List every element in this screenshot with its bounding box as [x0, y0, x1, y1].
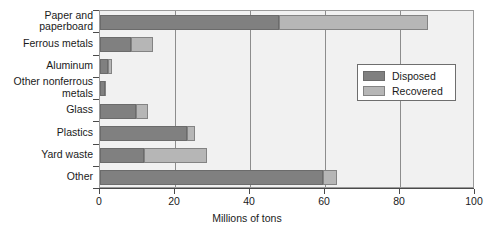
bar-segment-disposed [100, 37, 131, 52]
bar-segment-disposed [100, 170, 323, 185]
bar-yard-waste [100, 148, 207, 163]
bar-plastics [100, 126, 195, 141]
bar-segment-disposed [100, 126, 187, 141]
gridline-40 [250, 11, 251, 187]
bar-segment-recovered [144, 148, 207, 163]
bar-segment-recovered [131, 37, 153, 52]
bar-other-nonferrous-metals [100, 81, 106, 96]
x-tick-60 [324, 189, 325, 194]
y-axis-label-aluminum: Aluminum [0, 60, 93, 72]
y-axis-label-line: Ferrous metals [0, 38, 93, 50]
bar-segment-recovered [323, 170, 337, 185]
chart-legend: Disposed Recovered [357, 64, 456, 101]
y-axis-label-line: Aluminum [0, 60, 93, 72]
bar-segment-disposed [100, 59, 108, 74]
y-tick-4 [93, 99, 99, 100]
y-axis-label-paper-and-paperboard: Paper andpaperboard [0, 10, 93, 33]
y-axis-label-line: Plastics [0, 127, 93, 139]
y-axis-label-ferrous-metals: Ferrous metals [0, 38, 93, 50]
bar-other [100, 170, 337, 185]
bar-aluminum [100, 59, 112, 74]
x-tick-40 [249, 189, 250, 194]
x-tick-label-60: 60 [318, 195, 330, 207]
bar-segment-recovered [136, 104, 148, 119]
bar-ferrous-metals [100, 37, 153, 52]
bar-segment-disposed [100, 104, 136, 119]
y-axis-label-glass: Glass [0, 104, 93, 116]
y-axis-label-other: Other [0, 171, 93, 183]
x-tick-20 [174, 189, 175, 194]
x-axis-line [99, 188, 474, 189]
x-tick-80 [399, 189, 400, 194]
y-axis-label-line: Glass [0, 104, 93, 116]
x-tick-label-80: 80 [393, 195, 405, 207]
x-axis-title: Millions of tons [0, 212, 494, 224]
bar-segment-recovered [105, 81, 106, 96]
y-axis-label-plastics: Plastics [0, 127, 93, 139]
legend-entry-disposed: Disposed [363, 69, 450, 82]
y-axis-label-other-nonferrous-metals: Other nonferrousmetals [0, 76, 93, 99]
y-tick-0 [93, 10, 99, 11]
bar-chart: Paper andpaperboardFerrous metalsAluminu… [0, 0, 494, 235]
y-tick-6 [93, 144, 99, 145]
gridline-60 [325, 11, 326, 187]
y-tick-1 [93, 32, 99, 33]
legend-label-recovered: Recovered [392, 85, 443, 97]
bar-segment-recovered [187, 126, 195, 141]
bar-segment-disposed [100, 15, 279, 30]
x-tick-label-20: 20 [168, 195, 180, 207]
x-tick-0 [99, 189, 100, 194]
bar-paper-and-paperboard [100, 15, 428, 30]
y-tick-3 [93, 77, 99, 78]
bar-segment-disposed [100, 148, 144, 163]
x-tick-100 [474, 189, 475, 194]
y-tick-2 [93, 55, 99, 56]
y-axis-label-line: Yard waste [0, 149, 93, 161]
bar-segment-recovered [108, 59, 113, 74]
y-axis-label-line: metals [0, 88, 93, 100]
x-tick-label-0: 0 [96, 195, 102, 207]
x-tick-label-40: 40 [243, 195, 255, 207]
legend-swatch-recovered [363, 86, 385, 96]
x-tick-label-100: 100 [465, 195, 483, 207]
bar-segment-recovered [279, 15, 428, 30]
y-tick-7 [93, 166, 99, 167]
y-axis-label-line: Other [0, 171, 93, 183]
legend-label-disposed: Disposed [392, 70, 436, 82]
legend-entry-recovered: Recovered [363, 84, 450, 97]
y-axis-label-yard-waste: Yard waste [0, 149, 93, 161]
bar-glass [100, 104, 148, 119]
y-axis-label-line: paperboard [0, 21, 93, 33]
legend-swatch-disposed [363, 71, 385, 81]
y-tick-5 [93, 121, 99, 122]
